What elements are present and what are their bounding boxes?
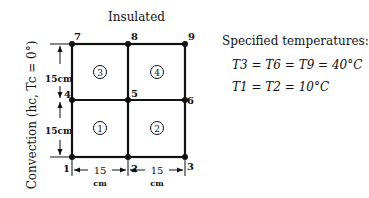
svg-text:8: 8 xyxy=(131,31,138,42)
svg-text:4: 4 xyxy=(64,89,71,100)
svg-text:7: 7 xyxy=(74,31,81,42)
svg-text:6: 6 xyxy=(187,95,194,106)
svg-text:4: 4 xyxy=(154,68,160,78)
svg-text:cm: cm xyxy=(93,178,107,188)
svg-text:cm: cm xyxy=(150,178,164,188)
svg-text:3: 3 xyxy=(187,161,194,172)
svg-text:15: 15 xyxy=(151,165,164,176)
svg-text:2: 2 xyxy=(154,124,160,134)
svg-text:15cm: 15cm xyxy=(45,126,73,136)
vertical-dimensions xyxy=(50,44,70,157)
svg-text:1: 1 xyxy=(97,124,103,134)
svg-text:9: 9 xyxy=(188,31,195,42)
svg-text:1: 1 xyxy=(63,163,70,174)
horizontal-dimension-units: cm cm xyxy=(93,178,164,188)
svg-text:5: 5 xyxy=(131,88,138,99)
svg-text:15: 15 xyxy=(94,165,107,176)
svg-text:3: 3 xyxy=(97,68,103,78)
horizontal-dimensions xyxy=(72,160,185,176)
svg-text:15cm: 15cm xyxy=(45,74,73,84)
